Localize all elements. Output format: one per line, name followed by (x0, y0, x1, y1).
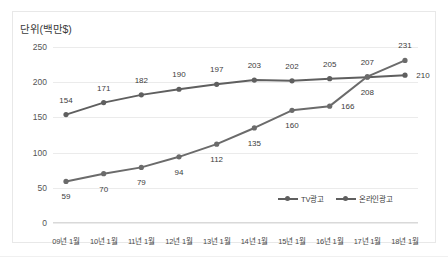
x-axis-tick-label: 10년 1월 (90, 235, 117, 246)
data-point-marker (214, 142, 219, 147)
x-axis-tick-label: 18년 1월 (391, 235, 418, 246)
data-value-label: 160 (285, 121, 298, 130)
y-axis-tick-label: 150 (33, 112, 47, 122)
x-axis-tick-label: 15년 1월 (278, 235, 305, 246)
legend-marker-icon (336, 195, 356, 202)
legend-label: TV광고 (301, 193, 324, 204)
y-axis-tick-label: 250 (33, 42, 47, 52)
x-axis-tick-label: 16년 1월 (316, 235, 343, 246)
x-axis-tick-label: 11년 1월 (128, 235, 155, 246)
data-point-marker (252, 125, 257, 130)
data-value-label: 135 (248, 138, 261, 147)
legend-entry[interactable]: 온라인광고 (336, 193, 393, 204)
x-axis-tick-label: 13년 1월 (203, 235, 230, 246)
bottom-divider (0, 256, 448, 257)
data-point-marker (176, 87, 181, 92)
data-value-label: 112 (210, 155, 223, 164)
y-axis-unit-title: 단위(백만$) (20, 21, 71, 36)
data-value-label: 171 (97, 83, 110, 92)
data-point-marker (402, 58, 407, 63)
data-point-marker (327, 76, 332, 81)
data-value-label: 79 (137, 178, 146, 187)
data-value-label: 207 (361, 58, 374, 67)
data-point-marker (252, 77, 257, 82)
data-point-marker (139, 92, 144, 97)
y-axis-tick-label: 0 (42, 218, 47, 228)
data-point-marker (63, 112, 68, 117)
data-value-label: 94 (175, 167, 184, 176)
data-point-marker (63, 179, 68, 184)
data-value-label: 190 (172, 70, 185, 79)
data-point-marker (101, 100, 106, 105)
data-value-label: 208 (361, 87, 374, 96)
data-point-marker (402, 73, 407, 78)
data-value-label: 59 (62, 192, 71, 201)
data-point-marker (176, 154, 181, 159)
data-value-label: 205 (323, 59, 336, 68)
x-axis-tick-label: 17년 1월 (354, 235, 381, 246)
legend-entry[interactable]: TV광고 (278, 193, 324, 204)
legend-label: 온라인광고 (359, 193, 393, 204)
chart-container: 단위(백만$) 050100150200250 09년 1월10년 1월11년 … (0, 0, 448, 265)
data-value-label: 197 (210, 65, 223, 74)
data-value-label: 202 (285, 61, 298, 70)
y-axis-tick-label: 100 (33, 148, 47, 158)
data-value-label: 70 (99, 184, 108, 193)
gridline (53, 223, 418, 224)
x-axis-tick-label: 14년 1월 (241, 235, 268, 246)
data-point-marker (289, 78, 294, 83)
data-point-marker (139, 165, 144, 170)
x-axis-tick-label: 12년 1월 (165, 235, 192, 246)
data-value-label: 154 (59, 95, 72, 104)
y-axis-tick-label: 50 (38, 183, 47, 193)
legend-marker-icon (278, 195, 298, 202)
data-value-label: 210 (416, 71, 429, 80)
chart-legend: TV광고온라인광고 (278, 193, 393, 204)
data-value-label: 231 (398, 41, 411, 50)
data-point-marker (214, 82, 219, 87)
y-axis-tick-label: 200 (33, 77, 47, 87)
data-point-marker (289, 108, 294, 113)
data-value-label: 203 (248, 61, 261, 70)
data-value-label: 166 (341, 102, 354, 111)
data-point-marker (327, 104, 332, 109)
data-value-label: 182 (135, 75, 148, 84)
data-point-marker (365, 74, 370, 79)
data-point-marker (101, 171, 106, 176)
x-axis-tick-label: 09년 1월 (52, 235, 79, 246)
